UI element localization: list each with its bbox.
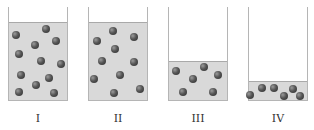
container-iv [248,7,308,101]
container-label: II [88,112,148,125]
gas-particle [214,71,222,79]
gas-particle [98,57,106,65]
gas-particle [209,88,217,96]
container-wall-left [248,7,249,101]
gas-particle [45,74,53,82]
container-label: IV [248,112,308,125]
gas-particle [93,37,101,45]
gas-particle [270,84,278,92]
gas-particle [31,41,39,49]
gas-particle [110,89,118,97]
container-iii [168,7,228,101]
gas-particle [15,88,23,96]
gas-particle [179,88,187,96]
gas-particle [258,84,266,92]
gas-particle [50,89,58,97]
gas-particle [37,57,45,65]
gas-particle [42,25,50,33]
container-wall-right [147,7,148,101]
gas-particle [116,71,124,79]
gas-particle [200,63,208,71]
gas-particle [111,45,119,53]
gas-particle [130,58,138,66]
gas-particle [172,67,180,75]
gas-particle [280,92,288,100]
gas-particle [90,75,98,83]
gas-particle [15,50,23,58]
gas-particle [289,85,297,93]
gas-particle [52,37,60,45]
gas-particle [57,60,65,68]
container-wall-right [67,7,68,101]
container-wall-right [307,7,308,101]
container-wall-left [8,7,9,101]
gas-particle [32,81,40,89]
gas-particle [17,71,25,79]
gas-particle [130,33,138,41]
container-wall-left [88,7,89,101]
gas-particle [296,92,304,100]
container-wall-right [227,7,228,101]
gas-particle [12,31,20,39]
container-wall-left [168,7,169,101]
gas-particle [136,85,144,93]
gas-particle [109,27,117,35]
gas-particle [189,75,197,83]
gas-particle [246,91,254,99]
container-label: I [8,112,68,125]
container-label: III [168,112,228,125]
